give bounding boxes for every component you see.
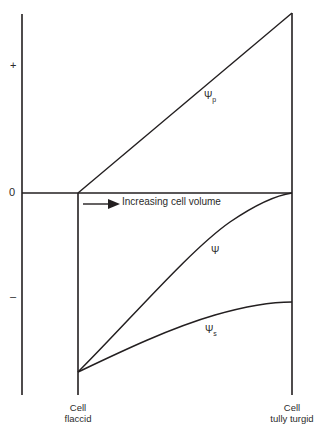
caption-cell-flaccid-line2: flaccid (38, 413, 118, 424)
caption-cell-turgid: Cell tully turgid (252, 402, 328, 424)
psi-p-subscript: p (212, 96, 216, 103)
y-axis-negative-label: – (10, 291, 16, 301)
caption-cell-flaccid-line1: Cell (38, 402, 118, 413)
psi-symbol: Ψ (211, 245, 219, 256)
y-axis-positive-label: + (10, 60, 16, 70)
right-arrow-icon (108, 199, 120, 209)
caption-cell-flaccid: Cell flaccid (38, 402, 118, 424)
curve-solute-potential (78, 302, 292, 372)
curve-pressure-potential (78, 13, 292, 193)
y-axis-zero-label: 0 (9, 187, 15, 197)
caption-cell-turgid-line1: Cell (252, 402, 328, 413)
caption-cell-turgid-line2: tully turgid (252, 413, 328, 424)
plot-area (0, 0, 328, 438)
increasing-cell-volume-label: Increasing cell volume (122, 196, 221, 207)
water-potential-diagram: + 0 – Increasing cell volume Ψp Ψ Ψs Cel… (0, 0, 328, 438)
curve-label-water-potential: Ψ (211, 245, 219, 256)
curve-label-solute-potential: Ψs (205, 324, 217, 337)
curve-label-pressure-potential: Ψp (204, 90, 216, 103)
psi-s-subscript: s (213, 330, 217, 337)
curve-water-potential (78, 193, 292, 372)
